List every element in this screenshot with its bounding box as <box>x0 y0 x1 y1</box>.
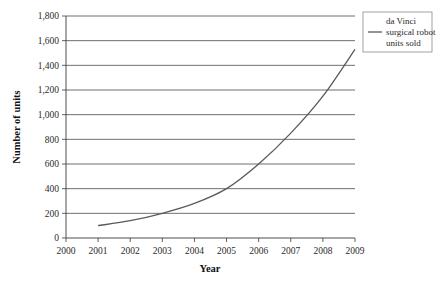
line-chart: 02004006008001,0001,2001,4001,6001,800 2… <box>0 0 440 287</box>
legend-label-line1: da Vinci <box>386 16 417 26</box>
y-tick-label: 600 <box>45 159 60 169</box>
x-tick-label: 2000 <box>57 246 76 256</box>
x-tick-label: 2002 <box>121 246 140 256</box>
x-axis-title: Year <box>200 263 221 274</box>
gridlines-group <box>66 16 355 213</box>
y-tick-label: 1,200 <box>38 85 60 95</box>
y-tick-label: 1,000 <box>38 110 60 120</box>
x-tick-label: 2001 <box>89 246 108 256</box>
y-axis-ticks-group: 02004006008001,0001,2001,4001,6001,800 <box>38 11 66 243</box>
y-tick-label: 1,800 <box>38 11 60 21</box>
x-tick-label: 2008 <box>313 246 332 256</box>
x-tick-label: 2003 <box>153 246 172 256</box>
x-tick-label: 2009 <box>346 246 365 256</box>
legend: da Vinci surgical robot units sold <box>363 12 436 52</box>
x-tick-label: 2005 <box>217 246 236 256</box>
y-tick-label: 1,600 <box>38 36 60 46</box>
legend-label-line3: units sold <box>386 38 421 48</box>
x-tick-label: 2004 <box>185 246 204 256</box>
chart-canvas: 02004006008001,0001,2001,4001,6001,800 2… <box>0 0 440 287</box>
x-axis-ticks-group: 2000200120022003200420052006200720082009 <box>57 238 365 256</box>
y-tick-label: 0 <box>54 233 59 243</box>
x-tick-label: 2006 <box>249 246 268 256</box>
y-tick-label: 800 <box>45 135 60 145</box>
series-line-da-vinci <box>98 49 355 225</box>
y-tick-label: 1,400 <box>38 61 60 71</box>
x-tick-label: 2007 <box>281 246 300 256</box>
legend-label-line2: surgical robot <box>386 27 436 37</box>
y-tick-label: 200 <box>45 209 60 219</box>
y-tick-label: 400 <box>45 184 60 194</box>
y-axis-title: Number of units <box>11 90 22 163</box>
